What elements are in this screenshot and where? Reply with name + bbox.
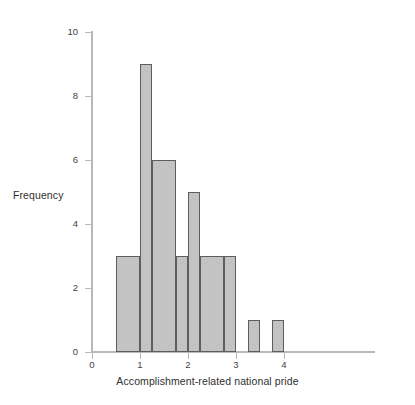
histogram-bar <box>116 256 140 352</box>
x-axis-title: Accomplishment-related national pride <box>0 375 415 387</box>
y-tick-label-4: 4 <box>73 219 78 229</box>
histogram-bar <box>188 192 200 352</box>
histogram-bar <box>272 320 284 352</box>
histogram-bar <box>224 256 236 352</box>
histogram-bar <box>248 320 260 352</box>
y-tick-label-6: 6 <box>73 155 78 165</box>
y-tick-label-10: 10 <box>67 27 78 37</box>
y-tick-10 <box>85 32 91 33</box>
x-tick-label-4: 4 <box>281 360 286 370</box>
y-tick-label-8: 8 <box>73 91 78 101</box>
y-tick-6 <box>85 160 91 161</box>
y-tick-0 <box>85 352 91 353</box>
y-axis-title: Frequency <box>13 189 64 201</box>
y-tick-4 <box>85 224 91 225</box>
y-tick-label-2: 2 <box>73 283 78 293</box>
y-axis-line <box>91 31 93 353</box>
x-tick-label-3: 3 <box>233 360 238 370</box>
y-tick-2 <box>85 288 91 289</box>
histogram-bar <box>140 64 152 352</box>
y-tick-8 <box>85 96 91 97</box>
x-tick-label-2: 2 <box>185 360 190 370</box>
histogram-bar <box>200 256 224 352</box>
histogram-figure: 0 2 4 6 8 10 0 1 2 3 4 Frequency Accompl… <box>0 0 415 405</box>
histogram-bar <box>152 160 176 352</box>
y-tick-label-0: 0 <box>73 347 78 357</box>
x-tick-label-0: 0 <box>89 360 94 370</box>
histogram-bar <box>176 256 188 352</box>
x-tick-label-1: 1 <box>137 360 142 370</box>
